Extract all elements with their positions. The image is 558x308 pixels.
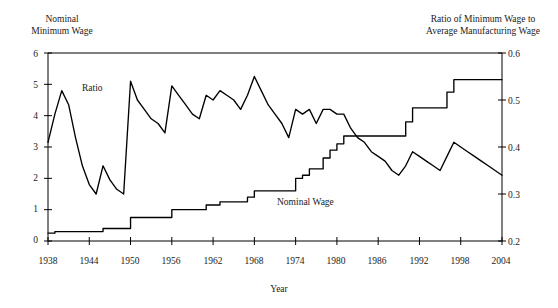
x-tick-1986: 1986 [357,256,397,266]
left-tick-0: 0 [16,235,38,245]
axis-lines [48,53,502,241]
right-tick-0-4: 0.4 [508,143,534,153]
left-tick-5: 5 [16,80,38,90]
cropped-top-text [0,0,558,6]
x-tick-1944: 1944 [69,256,109,266]
tick-marks [44,53,506,245]
series-label-ratio: Ratio [82,83,103,93]
series-line-ratio [48,77,502,195]
left-tick-3: 3 [16,142,38,152]
x-tick-1980: 1980 [316,256,356,266]
left-tick-2: 2 [16,173,38,183]
x-tick-1974: 1974 [275,256,315,266]
right-tick-0-2: 0.2 [508,237,534,247]
chart-figure: Nominal Minimum Wage Ratio of Minimum Wa… [0,0,558,308]
series-label-nominal-wage: Nominal Wage [277,197,334,207]
x-tick-1956: 1956 [151,256,191,266]
right-tick-0-6: 0.6 [508,49,534,59]
right-tick-0-5: 0.5 [508,96,534,106]
series-line-nominal-wage [48,80,502,234]
x-tick-1950: 1950 [110,256,150,266]
x-tick-1992: 1992 [399,256,439,266]
x-tick-2004: 2004 [481,256,521,266]
x-tick-1938: 1938 [28,256,68,266]
right-tick-0-3: 0.3 [508,190,534,200]
x-tick-1962: 1962 [193,256,233,266]
x-tick-1968: 1968 [234,256,274,266]
left-tick-6: 6 [16,49,38,59]
left-axis-title: Nominal Minimum Wage [2,14,122,37]
x-axis-title: Year [0,284,558,294]
left-tick-1: 1 [16,204,38,214]
x-tick-1998: 1998 [440,256,480,266]
right-axis-title: Ratio of Minimum Wage to Average Manufac… [410,14,556,37]
left-tick-4: 4 [16,111,38,121]
